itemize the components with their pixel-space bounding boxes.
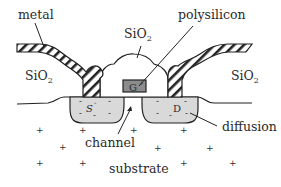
svg-text:+: + xyxy=(36,158,44,168)
oxide-center-label: SiO2 xyxy=(124,26,152,43)
svg-text:+: + xyxy=(79,158,87,168)
svg-text:+: + xyxy=(180,158,188,168)
svg-text:+: + xyxy=(229,158,237,168)
svg-text:-: - xyxy=(184,97,187,106)
mosfet-cross-section-diagram: G + metal polysilicon SiO2 SiO2 SiO2 S -… xyxy=(0,0,281,187)
svg-text:+: + xyxy=(180,125,188,135)
svg-text:+: + xyxy=(36,125,44,135)
channel-label: channel xyxy=(85,135,135,150)
substrate-label: substrate xyxy=(109,161,169,176)
gate-label: G xyxy=(129,82,137,93)
metal-label: metal xyxy=(18,7,54,22)
svg-text:-: - xyxy=(79,109,82,118)
svg-text:-: - xyxy=(108,97,111,106)
source-label: S xyxy=(86,103,93,114)
svg-text:-: - xyxy=(156,109,159,118)
svg-text:-: - xyxy=(93,111,96,120)
svg-text:+: + xyxy=(206,143,214,153)
channel-arrowhead xyxy=(127,106,132,111)
diffusion-label: diffusion xyxy=(222,119,277,134)
drain-label: D xyxy=(173,103,181,114)
svg-text:-: - xyxy=(108,109,111,118)
svg-text:+: + xyxy=(154,143,162,153)
svg-text:+: + xyxy=(59,142,67,152)
oxide-right-label: SiO2 xyxy=(231,68,259,85)
svg-text:+: + xyxy=(79,125,87,135)
svg-text:+: + xyxy=(130,125,138,135)
svg-text:-: - xyxy=(156,97,159,106)
oxide-left-label: SiO2 xyxy=(25,68,53,85)
polysilicon-label: polysilicon xyxy=(178,7,246,22)
svg-text:-: - xyxy=(185,109,188,118)
svg-text:-: - xyxy=(79,97,82,106)
svg-text:-: - xyxy=(169,111,172,120)
